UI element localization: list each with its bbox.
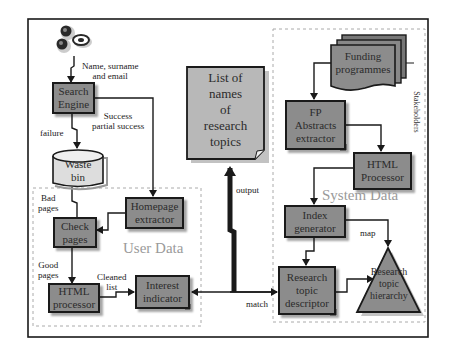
cleaned-list-edge-label: Cleaned list: [97, 272, 127, 292]
research-topic-descriptor-node: Research topic descriptor: [278, 266, 336, 315]
check-pages-node: Check pages: [53, 217, 97, 248]
system-side-label: Stakeholders: [412, 91, 421, 132]
interest-indicator-node: Interest indicator: [135, 275, 190, 309]
system-data-title: System Data: [322, 187, 398, 204]
funding-programmes-node: Funding programmes: [331, 50, 395, 76]
map-edge-label: map: [360, 228, 376, 238]
input-edge-label: Name, surname and email: [82, 61, 138, 81]
bad-pages-edge-label: Bad pages: [38, 193, 59, 213]
html-processor-user-node: HTML processor: [48, 283, 100, 313]
homepage-extractor-node: Homepage extractor: [125, 197, 184, 229]
good-pages-edge-label: Good pages: [38, 260, 59, 280]
failure-edge-label: failure: [40, 128, 63, 138]
html-processor-system-node: HTML Processor: [353, 152, 412, 190]
architecture-diagram: Stakeholders Search Engine Waste bin Che…: [0, 0, 452, 358]
waste-bin-node: Waste bin: [53, 158, 103, 184]
users-icon: [57, 26, 93, 54]
user-data-title: User Data: [123, 240, 183, 257]
list-of-topics-node: List of names of research topics: [187, 70, 264, 150]
match-edge-label: match: [246, 299, 268, 309]
output-edge-label: output: [236, 185, 259, 195]
success-edge-label: Success partial success: [92, 111, 144, 131]
search-engine-node: Search Engine: [52, 82, 95, 114]
index-generator-node: Index generator: [284, 205, 346, 238]
research-topic-hierarchy-node: Research topic hierarchy: [358, 266, 420, 302]
fp-abstracts-extractor-node: FP Abstracts extractor: [285, 100, 346, 150]
